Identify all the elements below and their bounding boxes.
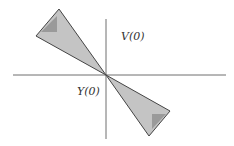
v-axis-label: V(0)	[121, 30, 145, 43]
diagram-canvas	[0, 0, 234, 146]
y-axis-label: Y(0)	[77, 85, 100, 98]
upper-left-cone	[36, 9, 106, 75]
lower-right-cone	[106, 75, 170, 136]
